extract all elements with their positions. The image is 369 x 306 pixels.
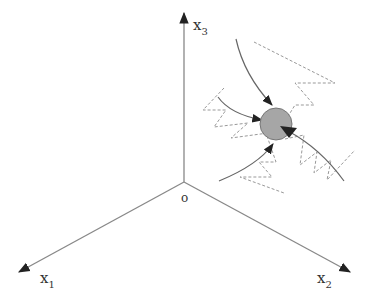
trajectory-top (236, 39, 272, 105)
trajectory-left (218, 97, 262, 120)
trajectory-bottom (219, 144, 273, 181)
x1-label: x1 (40, 269, 55, 290)
dashed-path-bottom (240, 136, 284, 193)
dashed-path-top (254, 42, 335, 118)
x1-axis (19, 182, 184, 272)
origin-label: o (181, 191, 188, 205)
x3-label: x3 (193, 16, 208, 37)
axes (19, 13, 350, 272)
dashed-path-right (285, 135, 355, 180)
particle (260, 108, 297, 140)
x2-axis (184, 182, 350, 272)
x2-label: x2 (317, 269, 332, 290)
dashed-path-left (203, 88, 268, 138)
coordinate-diagram: x3 x1 x2 o (0, 0, 369, 306)
